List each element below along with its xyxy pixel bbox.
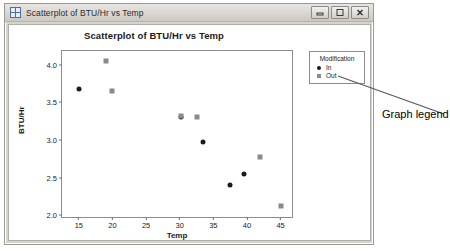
x-tick-mark	[213, 217, 214, 220]
x-tick-label: 20	[108, 221, 116, 230]
x-axis-label: Temp	[61, 231, 293, 240]
y-tick: 2.5	[47, 173, 62, 182]
minitab-graph-icon	[10, 7, 21, 18]
x-tick-mark	[78, 217, 79, 220]
x-tick: 20	[108, 217, 116, 230]
y-tick-label: 3.5	[47, 98, 57, 107]
y-tick-label: 2.0	[47, 211, 57, 220]
legend-entry-in: In	[314, 64, 360, 71]
x-tick-label: 15	[75, 221, 83, 230]
scatter-point-in	[201, 140, 206, 145]
y-tick: 4.0	[47, 60, 62, 69]
window-titlebar[interactable]: Scatterplot of BTU/Hr vs Temp	[5, 4, 373, 22]
legend-label: Out	[326, 72, 336, 79]
annotation-label: Graph legend	[382, 108, 449, 120]
x-tick: 45	[276, 217, 284, 230]
y-tick-label: 2.5	[47, 173, 57, 182]
scatter-point-out	[195, 115, 200, 120]
x-tick-label: 25	[142, 221, 150, 230]
chart-title: Scatterplot of BTU/Hr vs Temp	[9, 30, 299, 41]
scatter-point-out	[258, 155, 263, 160]
x-tick-label: 40	[243, 221, 251, 230]
y-tick: 2.0	[47, 211, 62, 220]
x-tick-mark	[179, 217, 180, 220]
y-axis-label: BTU/Hr	[17, 106, 26, 134]
square-icon	[317, 74, 321, 78]
x-tick-mark	[146, 217, 147, 220]
scatter-point-out	[110, 88, 115, 93]
window-title: Scatterplot of BTU/Hr vs Temp	[26, 8, 311, 18]
x-tick: 35	[209, 217, 217, 230]
y-tick: 3.5	[47, 98, 62, 107]
scatter-point-out	[103, 58, 108, 63]
y-tick-label: 3.0	[47, 135, 57, 144]
legend-marker-icon	[314, 66, 324, 70]
scatter-point-out	[278, 204, 283, 209]
scatter-point-out	[179, 113, 184, 118]
scatter-point-in	[241, 171, 246, 176]
x-tick: 15	[75, 217, 83, 230]
window-controls	[311, 6, 369, 19]
x-tick: 40	[243, 217, 251, 230]
legend-label: In	[326, 64, 331, 71]
x-tick: 25	[142, 217, 150, 230]
scatter-point-in	[228, 183, 233, 188]
plot-area: 2.02.53.03.54.0 15202530354045	[61, 50, 293, 218]
graph-window: Scatterplot of BTU/Hr vs Temp Scatterpl	[4, 3, 374, 245]
x-tick-mark	[246, 217, 247, 220]
x-tick-mark	[112, 217, 113, 220]
scatter-point-in	[76, 86, 81, 91]
legend-marker-icon	[314, 74, 324, 78]
circle-icon	[317, 66, 321, 70]
x-tick-label: 30	[176, 221, 184, 230]
x-tick-label: 45	[276, 221, 284, 230]
x-tick: 30	[176, 217, 184, 230]
y-tick: 3.0	[47, 135, 62, 144]
minimize-button[interactable]	[311, 6, 329, 19]
x-tick-mark	[280, 217, 281, 220]
x-tick-label: 35	[209, 221, 217, 230]
scatter-points-layer	[62, 51, 292, 217]
legend-entry-out: Out	[314, 72, 360, 79]
legend-title: Modification	[314, 55, 360, 62]
legend-entries: InOut	[314, 64, 360, 79]
y-tick-label: 4.0	[47, 60, 57, 69]
close-button[interactable]	[351, 6, 369, 19]
chart-legend: Modification InOut	[309, 51, 365, 84]
graph-client-area: Scatterplot of BTU/Hr vs Temp BTU/Hr Tem…	[8, 24, 371, 241]
graph-surface: Scatterplot of BTU/Hr vs Temp BTU/Hr Tem…	[9, 25, 370, 240]
maximize-button[interactable]	[331, 6, 349, 19]
